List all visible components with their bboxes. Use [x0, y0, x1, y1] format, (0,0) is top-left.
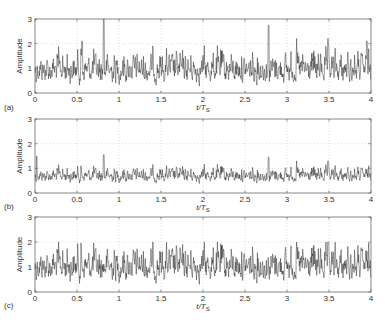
- x-tick-label: 1: [117, 95, 122, 104]
- x-tick-label: 1.5: [155, 294, 167, 303]
- panel-label: (a): [4, 103, 14, 112]
- x-tick-label: 3.5: [323, 195, 335, 204]
- x-tick-label: 4: [369, 195, 374, 204]
- y-tick-label: 3: [28, 15, 33, 24]
- panel-c: 00.511.522.533.540123Amplitudet/TS(c): [4, 213, 374, 312]
- x-tick-label: 1.5: [155, 95, 167, 104]
- x-tick-label: 4: [369, 95, 374, 104]
- x-tick-label: 1: [117, 195, 122, 204]
- x-tick-label: 4: [369, 294, 374, 303]
- x-tick-label: 3: [285, 195, 290, 204]
- x-tick-label: 3: [285, 95, 290, 104]
- x-tick-label: 0.5: [71, 294, 83, 303]
- x-tick-label: 2.5: [239, 195, 251, 204]
- y-axis-label: Amplitude: [15, 236, 24, 272]
- x-axis-label: t/TS: [196, 103, 209, 113]
- y-tick-label: 0: [28, 288, 33, 297]
- panel-label: (b): [4, 202, 14, 211]
- x-tick-label: 0: [33, 95, 38, 104]
- figure: 00.511.522.533.540123Amplitudet/TS(a)00.…: [0, 0, 385, 327]
- x-tick-label: 3: [285, 294, 290, 303]
- x-tick-label: 1: [117, 294, 122, 303]
- y-tick-label: 2: [28, 238, 33, 247]
- panel-label: (c): [4, 301, 14, 310]
- x-axis-label: t/TS: [196, 302, 209, 312]
- x-tick-label: 1.5: [155, 195, 167, 204]
- y-tick-label: 1: [28, 164, 33, 173]
- x-tick-label: 0: [33, 294, 38, 303]
- y-tick-label: 3: [28, 115, 33, 124]
- x-tick-label: 0: [33, 195, 38, 204]
- panel-b: 00.511.522.533.540123Amplitudet/TS(b): [4, 115, 374, 213]
- x-tick-label: 3.5: [323, 294, 335, 303]
- x-tick-label: 2.5: [239, 95, 251, 104]
- y-tick-label: 3: [28, 213, 33, 222]
- y-tick-label: 0: [28, 189, 33, 198]
- x-tick-label: 0.5: [71, 195, 83, 204]
- y-tick-label: 1: [28, 64, 33, 73]
- x-axis-label: t/TS: [196, 203, 209, 213]
- y-tick-label: 1: [28, 263, 33, 272]
- panel-a: 00.511.522.533.540123Amplitudet/TS(a): [4, 15, 374, 113]
- y-tick-label: 0: [28, 89, 33, 98]
- y-axis-label: Amplitude: [15, 38, 24, 74]
- y-tick-label: 2: [28, 140, 33, 149]
- x-tick-label: 3.5: [323, 95, 335, 104]
- x-tick-label: 0.5: [71, 95, 83, 104]
- y-tick-label: 2: [28, 40, 33, 49]
- x-tick-label: 2.5: [239, 294, 251, 303]
- y-axis-label: Amplitude: [15, 138, 24, 174]
